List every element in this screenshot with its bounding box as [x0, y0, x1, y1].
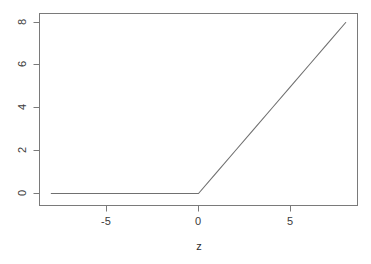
chart-background — [0, 0, 371, 264]
y-tick-label-4: 4 — [16, 104, 28, 110]
y-tick-label-0: 0 — [16, 190, 28, 196]
y-tick-label-6: 6 — [16, 61, 28, 67]
relu-chart: 8 6 4 2 0 -5 0 5 z — [0, 0, 371, 264]
y-tick-label-8: 8 — [16, 19, 28, 25]
x-tick-label-0: 0 — [195, 215, 201, 227]
x-tick-label-minus5: -5 — [101, 215, 111, 227]
x-tick-label-5: 5 — [287, 215, 293, 227]
plot-canvas: 8 6 4 2 0 -5 0 5 z — [0, 0, 371, 264]
y-tick-label-2: 2 — [16, 147, 28, 153]
x-axis-title: z — [196, 240, 202, 252]
